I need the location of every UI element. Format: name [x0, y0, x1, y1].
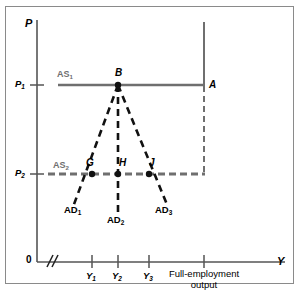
as1-label-text: AS [57, 69, 70, 79]
tick-label-y3: Y3 [143, 271, 153, 281]
tick-label-y1-sub: 1 [92, 275, 96, 282]
figure-container: P Y 0 P1 P2 Y1 Y2 Y3 Full-employment out… [0, 0, 301, 291]
ad3-label: AD3 [155, 205, 172, 215]
point-label-j: J [149, 158, 155, 168]
x-axis-label: Y [277, 256, 284, 267]
point-marker-g [89, 171, 95, 177]
ad2-label: AD2 [107, 215, 124, 225]
point-label-b: B [115, 68, 122, 78]
ad3-curve [118, 85, 168, 207]
point-label-h: H [119, 158, 126, 168]
ad1-label: AD1 [64, 205, 81, 215]
ad2-label-sub: 2 [121, 219, 125, 226]
ad3-label-text: AD [155, 204, 169, 215]
ad1-curve [73, 85, 118, 207]
as1-label-sub: 1 [70, 73, 73, 80]
as2-label: AS2 [53, 161, 69, 170]
point-marker-h [115, 171, 121, 177]
tick-label-p2: P2 [15, 168, 25, 178]
ad2-label-text: AD [107, 214, 121, 225]
tick-label-p2-sub: 2 [21, 172, 25, 179]
diagram-canvas [0, 0, 301, 291]
y-axis-label: P [25, 18, 32, 29]
as1-label: AS1 [57, 70, 73, 79]
tick-label-y2-sub: 2 [118, 275, 122, 282]
tick-label-y2: Y2 [112, 271, 122, 281]
full-employment-caption: Full-employment output [157, 269, 251, 290]
point-label-g: G [86, 158, 94, 168]
tick-label-y1: Y1 [86, 271, 96, 281]
point-marker-b [115, 82, 121, 88]
tick-label-y3-sub: 3 [149, 275, 153, 282]
ad1-label-text: AD [64, 204, 78, 215]
point-marker-j [146, 171, 152, 177]
full-employment-caption-line2: output [157, 280, 251, 291]
tick-label-p1: P1 [15, 79, 25, 89]
origin-label: 0 [26, 255, 32, 265]
tick-label-p1-sub: 1 [21, 83, 25, 90]
ad3-label-sub: 3 [169, 209, 173, 216]
ad1-label-sub: 1 [78, 209, 82, 216]
point-label-a: A [209, 80, 216, 90]
as2-label-sub: 2 [66, 164, 69, 171]
as2-label-text: AS [53, 160, 66, 170]
